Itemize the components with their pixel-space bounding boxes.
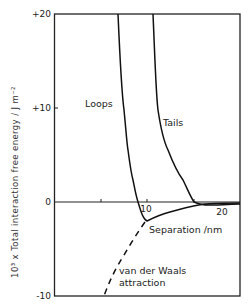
vdw-label-line2: attraction xyxy=(119,277,165,288)
interaction-energy-chart: +20 +10 0 -10 10 20 Loops Tails Separati… xyxy=(0,0,250,308)
y-tick-label-10: +10 xyxy=(32,103,51,113)
loops-label: Loops xyxy=(85,98,113,109)
x-tick-label-20: 20 xyxy=(216,207,228,217)
y-tick-label-0: 0 xyxy=(45,197,51,207)
plot-frame xyxy=(55,14,241,296)
vdw-label-line1: van der Waals xyxy=(119,265,186,276)
x-axis-label: Separation /nm xyxy=(149,224,222,235)
tails-curve xyxy=(153,14,240,205)
y-tick-label-20: +20 xyxy=(32,9,51,19)
tails-label: Tails xyxy=(162,117,183,128)
y-tick-label-m10: -10 xyxy=(36,291,51,301)
y-axis-label: 10³ x Total interaction free energy / J … xyxy=(10,86,20,278)
